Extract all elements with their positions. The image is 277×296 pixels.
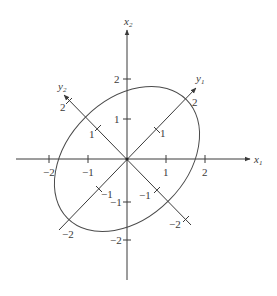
x2-axis: 2 1 −1 −2 x2 [110,15,133,280]
x2-tick-label: −2 [110,234,122,246]
y1-tick-label: 1 [160,127,166,139]
x1-tick-label: 2 [202,166,208,178]
y1-tick-label: −2 [62,228,74,240]
y2-tick-label: −2 [169,218,181,230]
y1-axis: 2 1 −1 −2 y1 [59,72,204,240]
y1-tick-label: −1 [101,188,113,200]
y2-tick [183,216,189,222]
y2-axis-label: y2 [57,80,67,94]
x1-tick-label: −2 [43,166,55,178]
x1-axis-label: x1 [253,153,262,167]
y2-tick-label: −1 [139,189,151,201]
y1-tick-label: 2 [192,96,198,108]
y2-tick-label: 2 [60,101,66,113]
x1-tick-label: −1 [82,166,94,178]
y2-tick-label: 1 [89,128,95,140]
y2-tick [66,98,72,104]
x1-axis: −2 −1 1 2 x1 [16,153,262,178]
y1-axis-label: y1 [195,72,204,86]
y2-axis: 2 1 −1 −2 y2 [57,80,191,230]
coordinate-diagram: −2 −1 1 2 x1 2 1 −1 −2 x2 2 1 −1 −2 y1 2 [0,0,277,296]
x1-tick-label: 1 [163,166,169,178]
x2-tick-label: 1 [114,113,120,125]
x2-tick-label: 2 [114,73,120,85]
origin-point [125,157,128,160]
x2-axis-label: x2 [123,15,133,29]
